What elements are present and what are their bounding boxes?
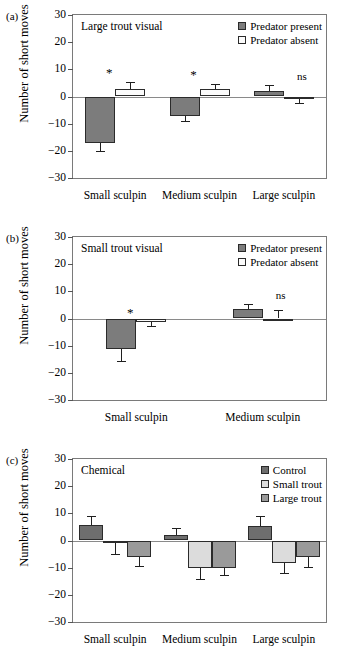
error-bar-cap [135, 566, 144, 567]
y-axis-tick [68, 459, 73, 460]
y-axis-tick-label: 20 [55, 258, 67, 270]
error-bar-cap [295, 103, 304, 104]
y-axis-tick [68, 400, 73, 401]
y-axis-tick-label: 0 [60, 535, 66, 547]
y-axis-tick-label: −10 [48, 340, 66, 352]
legend-label: Predator present [250, 241, 322, 255]
panel-b: (b) Number of short moves 3020100−10−20−… [0, 222, 347, 444]
y-axis-tick [68, 513, 73, 514]
y-axis-tick [68, 97, 73, 98]
y-axis-tick [68, 178, 73, 179]
error-bar [130, 82, 131, 89]
error-bar-cap [87, 516, 96, 517]
error-bar [139, 557, 140, 566]
y-axis-tick-label: 30 [55, 453, 67, 465]
y-axis-tick [68, 42, 73, 43]
legend-swatch-icon [238, 22, 246, 30]
legend: Predator presentPredator absent [238, 19, 322, 47]
error-bar-cap [147, 326, 156, 327]
error-bar-cap [172, 528, 181, 529]
panel-c: (c) Number of short moves 3020100−10−20−… [0, 444, 347, 670]
y-axis-tick-label: 10 [55, 508, 67, 520]
y-axis-tick [68, 622, 73, 623]
y-axis-tick [68, 595, 73, 596]
error-bar [100, 143, 101, 152]
x-axis-category-label: Small sculpin [84, 633, 147, 645]
bar [164, 535, 188, 541]
legend-label: Predator absent [250, 33, 318, 47]
error-bar-cap [211, 84, 220, 85]
y-axis-label: Number of short moves [17, 206, 32, 366]
panel-a: (a) Number of short moves 3020100−10−20−… [0, 0, 347, 222]
x-axis-category-label: Medium sculpin [225, 411, 300, 423]
legend-item: Predator present [238, 241, 322, 255]
error-bar-cap [96, 151, 105, 152]
y-axis-label: Number of short moves [17, 428, 32, 588]
error-bar-cap [280, 573, 289, 574]
bar [85, 97, 115, 143]
error-bar-cap [111, 554, 120, 555]
y-axis-tick [68, 319, 73, 320]
y-axis-tick [68, 568, 73, 569]
x-axis-category-label: Large sculpin [252, 189, 315, 201]
error-bar-cap [256, 516, 265, 517]
significance-annotation: ns [297, 70, 307, 82]
x-axis-category-label: Small sculpin [105, 411, 168, 423]
significance-annotation: * [127, 310, 134, 316]
bar [200, 89, 230, 96]
error-bar-cap [244, 304, 253, 305]
legend-item: Predator present [238, 19, 322, 33]
y-axis-tick-label: 30 [55, 9, 67, 21]
bar [212, 541, 236, 569]
legend-label: Large trout [273, 491, 322, 505]
bar [248, 526, 272, 540]
error-bar-cap [181, 121, 190, 122]
legend: Predator presentPredator absent [238, 241, 322, 269]
y-axis-tick [68, 541, 73, 542]
bar [233, 309, 263, 319]
legend-swatch-icon [261, 494, 269, 502]
legend-item: Control [261, 463, 322, 477]
y-axis-tick-label: −10 [48, 118, 66, 130]
y-axis-tick-label: −10 [48, 562, 66, 574]
y-axis-tick-label: 20 [55, 480, 67, 492]
legend-swatch-icon [261, 466, 269, 474]
significance-annotation: * [190, 72, 197, 78]
legend-label: Small trout [273, 477, 322, 491]
error-bar [260, 516, 261, 526]
x-axis-category-label: Small sculpin [84, 189, 147, 201]
legend: ControlSmall troutLarge trout [261, 463, 322, 505]
y-axis-tick-label: 20 [55, 36, 67, 48]
error-bar-cap [126, 82, 135, 83]
legend-swatch-icon [238, 258, 246, 266]
y-axis-tick-label: 30 [55, 231, 67, 243]
error-bar [284, 563, 285, 573]
bar [127, 541, 151, 557]
error-bar [200, 568, 201, 578]
x-axis-category-label: Medium sculpin [162, 633, 237, 645]
y-axis-tick-label: −20 [48, 367, 66, 379]
y-axis-tick [68, 373, 73, 374]
plot-area-b: 3020100−10−20−30Small trout visualPredat… [72, 236, 327, 401]
y-axis-tick-label: −30 [48, 394, 66, 406]
bar [79, 525, 103, 540]
bar [296, 541, 320, 557]
error-bar [91, 516, 92, 525]
bar [115, 89, 145, 96]
y-axis-tick-label: 10 [55, 64, 67, 76]
error-bar [224, 568, 225, 575]
plot-area-c: 3020100−10−20−30ChemicalControlSmall tro… [72, 458, 327, 623]
error-bar-cap [220, 575, 229, 576]
error-bar [115, 543, 116, 553]
legend-item: Predator absent [238, 33, 322, 47]
error-bar-cap [196, 579, 205, 580]
y-axis-tick [68, 69, 73, 70]
y-axis-tick [68, 346, 73, 347]
y-axis-tick [68, 291, 73, 292]
error-bar-cap [274, 310, 283, 311]
legend-label: Predator absent [250, 255, 318, 269]
y-axis-label: Number of short moves [17, 0, 32, 144]
y-axis-tick-label: 0 [60, 313, 66, 325]
bar [106, 319, 136, 349]
legend-label: Predator present [250, 19, 322, 33]
